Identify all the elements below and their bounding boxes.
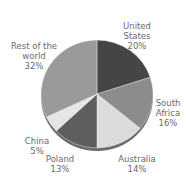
- pie-slices: [41, 40, 153, 148]
- label-south-africa: South Africa 16%: [156, 98, 181, 128]
- label-text: Australia: [118, 154, 156, 164]
- label-text: United: [123, 21, 151, 31]
- label-text: world: [11, 51, 57, 61]
- label-australia: Australia 14%: [118, 154, 156, 174]
- label-percent: 16%: [156, 118, 181, 128]
- label-united-states: United States 20%: [123, 21, 151, 51]
- label-text: Africa: [156, 108, 181, 118]
- label-rest-of-world: Rest of the world 32%: [11, 41, 57, 71]
- pie-chart: [0, 0, 186, 186]
- label-text: Poland: [46, 154, 74, 164]
- label-percent: 14%: [118, 164, 156, 174]
- label-percent: 32%: [11, 61, 57, 71]
- label-text: States: [123, 31, 151, 41]
- label-percent: 13%: [46, 164, 74, 174]
- label-text: Rest of the: [11, 41, 57, 51]
- label-poland: Poland 13%: [46, 154, 74, 174]
- label-text: China: [25, 136, 49, 146]
- label-text: South: [156, 98, 181, 108]
- label-percent: 20%: [123, 41, 151, 51]
- label-china: China 5%: [25, 136, 49, 156]
